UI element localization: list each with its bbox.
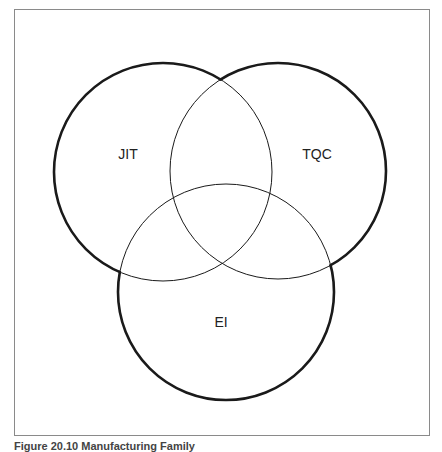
figure-caption: Figure 20.10 Manufacturing Family [14,440,195,452]
outer-arc-jit [54,63,272,281]
label-ei: EI [214,314,227,330]
label-jit: JIT [118,146,137,162]
label-tqc: TQC [302,146,332,162]
outer-arc-ei [118,184,334,400]
outer-arc-tqc [170,63,386,279]
